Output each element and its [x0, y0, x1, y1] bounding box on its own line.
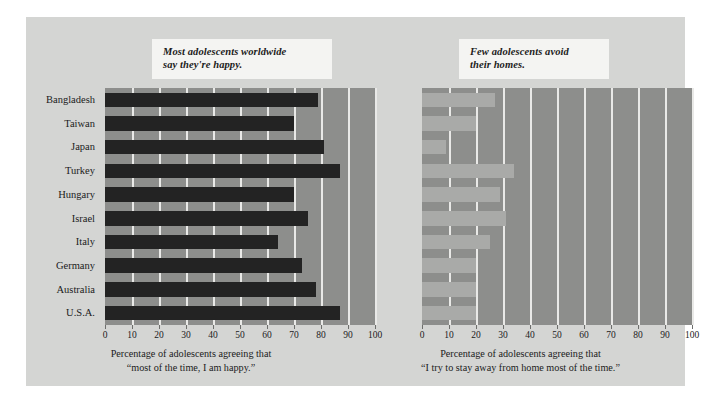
bars-happiness: [105, 88, 375, 325]
x-tick-20-avoidhome: [476, 325, 477, 329]
bar-australia-avoidhome: [422, 282, 476, 297]
bar-taiwan-avoidhome: [422, 116, 476, 131]
x-tick-90-avoidhome: [665, 325, 666, 329]
y-label-australia: Australia: [57, 278, 96, 302]
x-tick-label-0-avoidhome: 0: [420, 330, 425, 340]
bar-row: [422, 230, 692, 254]
x-tick-60-happiness: [267, 325, 268, 329]
bar-row: [422, 159, 692, 183]
x-tick-label-80-happiness: 80: [316, 330, 326, 340]
bar-row: [105, 159, 375, 183]
x-tick-10-avoidhome: [449, 325, 450, 329]
x-tick-label-10-avoidhome: 10: [444, 330, 454, 340]
bar-row: [422, 301, 692, 325]
bar-row: [105, 112, 375, 136]
y-label-taiwan: Taiwan: [64, 112, 95, 136]
x-tick-label-50-happiness: 50: [235, 330, 245, 340]
y-label-turkey: Turkey: [65, 159, 95, 183]
x-axis-caption-avoid-home: Percentage of adolescents agreeing that …: [356, 347, 685, 375]
bar-usa-avoidhome: [422, 306, 476, 321]
x-tick-label-20-avoidhome: 20: [471, 330, 481, 340]
y-axis-labels-happiness: BangladeshTaiwanJapanTurkeyHungaryIsrael…: [26, 88, 100, 325]
bar-row: [422, 135, 692, 159]
bar-bangladesh-avoidhome: [422, 93, 495, 108]
bar-row: [105, 254, 375, 278]
bar-turkey-avoidhome: [422, 164, 514, 179]
bar-hungary-happiness: [105, 187, 294, 202]
x-tick-30-happiness: [186, 325, 187, 329]
bar-row: [422, 278, 692, 302]
bar-italy-avoidhome: [422, 235, 490, 250]
y-label-germany: Germany: [56, 254, 95, 278]
bar-israel-happiness: [105, 211, 308, 226]
chart-title-happiness: Most adolescents worldwide say they're h…: [152, 39, 332, 79]
chart-title-avoid-home: Few adolescents avoid their homes.: [459, 39, 609, 79]
bar-row: [105, 88, 375, 112]
x-tick-30-avoidhome: [503, 325, 504, 329]
bar-row: [422, 254, 692, 278]
bar-usa-happiness: [105, 306, 340, 321]
x-tick-40-happiness: [213, 325, 214, 329]
plot-area-happiness: [105, 88, 375, 325]
x-tick-70-happiness: [294, 325, 295, 329]
bar-israel-avoidhome: [422, 211, 506, 226]
y-label-japan: Japan: [71, 135, 95, 159]
x-tick-100-avoidhome: [692, 325, 693, 329]
x-tick-50-happiness: [240, 325, 241, 329]
x-tick-label-10-happiness: 10: [127, 330, 137, 340]
x-tick-90-happiness: [348, 325, 349, 329]
bar-row: [422, 88, 692, 112]
x-tick-label-60-happiness: 60: [262, 330, 272, 340]
x-tick-70-avoidhome: [611, 325, 612, 329]
chart-panel: Most adolescents worldwide say they're h…: [26, 17, 685, 386]
x-tick-label-70-happiness: 70: [289, 330, 299, 340]
x-tick-80-avoidhome: [638, 325, 639, 329]
bar-australia-happiness: [105, 282, 316, 297]
x-tick-80-happiness: [321, 325, 322, 329]
x-tick-40-avoidhome: [530, 325, 531, 329]
x-tick-0-happiness: [105, 325, 106, 329]
y-label-bangladesh: Bangladesh: [46, 88, 95, 112]
x-tick-label-60-avoidhome: 60: [579, 330, 589, 340]
bar-row: [422, 207, 692, 231]
gridline-100-avoidhome: [692, 88, 694, 325]
x-tick-20-happiness: [159, 325, 160, 329]
bar-bangladesh-happiness: [105, 93, 318, 108]
x-tick-label-30-avoidhome: 30: [498, 330, 508, 340]
bar-japan-avoidhome: [422, 140, 446, 155]
x-tick-label-20-happiness: 20: [154, 330, 164, 340]
x-tick-0-avoidhome: [422, 325, 423, 329]
x-tick-label-40-avoidhome: 40: [525, 330, 535, 340]
x-tick-label-80-avoidhome: 80: [633, 330, 643, 340]
x-tick-label-90-avoidhome: 90: [660, 330, 670, 340]
bar-row: [105, 135, 375, 159]
bar-turkey-happiness: [105, 164, 340, 179]
x-tick-label-40-happiness: 40: [208, 330, 218, 340]
chart-happiness: Most adolescents worldwide say they're h…: [26, 17, 356, 386]
bar-hungary-avoidhome: [422, 187, 500, 202]
bar-row: [105, 278, 375, 302]
x-axis-avoid-home: 0102030405060708090100: [422, 325, 692, 347]
bar-taiwan-happiness: [105, 116, 294, 131]
bar-row: [105, 301, 375, 325]
y-label-italy: Italy: [76, 230, 95, 254]
figure-root: Most adolescents worldwide say they're h…: [0, 0, 711, 410]
x-tick-label-100-avoidhome: 100: [685, 330, 699, 340]
x-tick-label-70-avoidhome: 70: [606, 330, 616, 340]
y-label-hungary: Hungary: [58, 183, 95, 207]
bar-row: [105, 183, 375, 207]
x-tick-label-50-avoidhome: 50: [552, 330, 562, 340]
bars-avoid-home: [422, 88, 692, 325]
y-label-israel: Israel: [72, 207, 95, 231]
x-tick-10-happiness: [132, 325, 133, 329]
x-tick-60-avoidhome: [584, 325, 585, 329]
plot-area-avoid-home: [422, 88, 692, 325]
x-tick-label-90-happiness: 90: [343, 330, 353, 340]
bar-row: [105, 207, 375, 231]
bar-japan-happiness: [105, 140, 324, 155]
bar-row: [422, 112, 692, 136]
bar-row: [422, 183, 692, 207]
x-axis-caption-happiness: Percentage of adolescents agreeing that …: [26, 347, 356, 375]
x-axis-happiness: 0102030405060708090100: [105, 325, 375, 347]
bar-germany-avoidhome: [422, 258, 476, 273]
